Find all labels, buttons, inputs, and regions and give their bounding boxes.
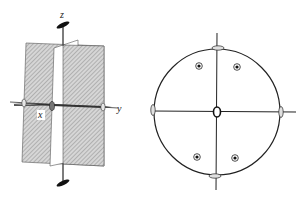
twofold-icon-top [212, 46, 224, 50]
stereographic-projection [151, 33, 296, 190]
twofold-icon-center-proj [214, 107, 221, 117]
pole-upper-right [234, 64, 241, 71]
y-axis-label: y [116, 103, 122, 114]
pole-lower-right [232, 155, 239, 162]
left-3d-sketch: z y x [10, 9, 122, 188]
twofold-icon-y-right [101, 103, 105, 111]
twofold-icon-left [151, 105, 155, 116]
pole-lower-left [194, 154, 201, 161]
twofold-icon-x-left [22, 99, 26, 107]
twofold-icon-right [279, 107, 283, 118]
x-axis-label: x [37, 109, 43, 120]
twofold-icon-bottom [209, 174, 221, 178]
figure-canvas: z y x [0, 0, 305, 199]
z-axis-label: z [59, 9, 64, 20]
twofold-icon-center [50, 102, 55, 111]
pole-upper-left [196, 63, 203, 70]
horizontal-diameter [152, 111, 296, 112]
